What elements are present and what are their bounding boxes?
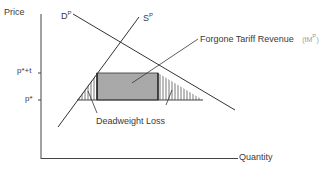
revenue-symbol: (tMP) — [302, 36, 318, 43]
revenue-symbol-sup: P — [312, 33, 316, 39]
x-axis-label-text: Quantity — [239, 152, 273, 162]
revenue-label: Forgone Tariff Revenue (tMP) — [200, 35, 319, 44]
revenue-label-text: Forgone Tariff Revenue — [200, 34, 294, 44]
tariff-revenue-area — [97, 73, 158, 100]
deadweight-loss-left — [77, 73, 97, 100]
world-price-text: p* — [25, 94, 33, 103]
revenue-leader — [132, 39, 198, 83]
supply-label: SP — [143, 14, 153, 23]
y-axis-label: Price — [4, 8, 25, 17]
x-axis-label: Quantity — [239, 153, 273, 162]
deadweight-loss-label: Deadweight Loss — [96, 117, 165, 126]
deadweight-loss-text: Deadweight Loss — [96, 116, 165, 126]
supply-curve — [58, 17, 139, 127]
demand-label-sup: P — [68, 10, 72, 16]
world-price-label: p* — [25, 95, 33, 103]
tariff-price-label: p*+t — [17, 67, 31, 75]
diagram-canvas — [0, 0, 333, 169]
supply-label-sup: P — [149, 12, 153, 18]
y-axis-label-text: Price — [4, 7, 25, 17]
tariff-price-text: p*+t — [17, 66, 31, 75]
demand-label: DP — [61, 12, 72, 21]
revenue-symbol-text: (tM — [302, 36, 312, 43]
revenue-symbol-close: ) — [316, 36, 318, 43]
demand-label-text: D — [61, 11, 68, 21]
